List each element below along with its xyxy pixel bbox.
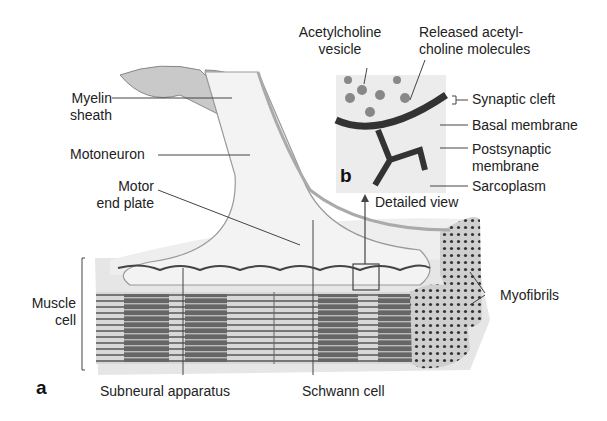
label-schwann-cell: Schwann cell: [302, 383, 385, 400]
label-sarcoplasm: Sarcoplasm: [472, 178, 546, 195]
label-released-acetylcholine: Released acetyl- choline molecules: [419, 24, 530, 58]
label-myelin-sheath: Myelin sheath: [52, 90, 112, 124]
label-motor-end-plate: Motor end plate: [80, 178, 154, 212]
label-acetylcholine-vesicle: Acetylcholine vesicle: [290, 24, 390, 58]
panel-label-a: a: [36, 377, 47, 399]
label-motoneuron: Motoneuron: [70, 146, 145, 163]
label-myofibrils: Myofibrils: [500, 287, 559, 304]
label-basal-membrane: Basal membrane: [472, 117, 578, 134]
label-synaptic-cleft: Synaptic cleft: [472, 91, 555, 108]
label-subneural-apparatus: Subneural apparatus: [100, 383, 230, 400]
synapse-detail-inset: [336, 75, 446, 193]
label-postsynaptic-membrane: Postsynaptic membrane: [472, 141, 551, 175]
label-muscle-cell: Muscle cell: [20, 295, 76, 329]
label-detailed-view: Detailed view: [375, 194, 458, 211]
panel-label-b: b: [340, 165, 352, 187]
